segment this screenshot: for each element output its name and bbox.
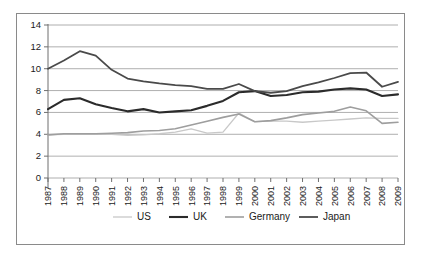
x-axis-tick-label: 1993	[139, 186, 149, 206]
chart-frame: 0246810121419871988198919901991199219931…	[16, 13, 405, 245]
x-axis-tick-label: 2005	[330, 186, 340, 206]
x-axis-tick-label: 1994	[155, 186, 165, 206]
x-axis-tick-label: 1999	[234, 186, 244, 206]
x-axis-tick-label: 2003	[298, 186, 308, 206]
y-axis-tick-label: 4	[36, 128, 41, 139]
x-axis-tick-label: 2008	[377, 186, 387, 206]
x-axis-tick-label: 1992	[123, 186, 133, 206]
x-axis-tick-label: 2000	[250, 186, 260, 206]
x-axis-tick-label: 2002	[282, 186, 292, 206]
y-axis-tick-label: 6	[36, 106, 41, 117]
x-axis-tick-label: 1996	[187, 186, 197, 206]
legend-label-germany: Germany	[249, 211, 290, 222]
x-axis-tick-label: 1990	[91, 186, 101, 206]
series-line-us	[48, 113, 398, 135]
x-axis-tick-label: 1991	[107, 186, 117, 206]
chart-plot-area: 0246810121419871988198919901991199219931…	[17, 14, 406, 246]
y-axis-tick-label: 14	[30, 19, 41, 30]
y-axis-tick-label: 0	[36, 172, 41, 183]
x-axis-tick-label: 2004	[314, 186, 324, 206]
series-line-germany	[48, 107, 398, 135]
y-axis-tick-label: 10	[30, 63, 41, 74]
x-axis-tick-label: 2007	[362, 186, 372, 206]
line-chart: 0246810121419871988198919901991199219931…	[17, 14, 406, 246]
x-axis-tick-label: 1988	[59, 186, 69, 206]
x-axis-tick-label: 1997	[202, 186, 212, 206]
legend-label-japan: Japan	[323, 211, 350, 222]
x-axis-tick-label: 2006	[346, 186, 356, 206]
x-axis-tick-label: 2009	[393, 186, 403, 206]
x-axis-tick-label: 1989	[75, 186, 85, 206]
x-axis-tick-label: 1995	[171, 186, 181, 206]
legend-label-uk: UK	[193, 211, 207, 222]
x-axis-tick-label: 2001	[266, 186, 276, 206]
y-axis-tick-label: 2	[36, 150, 41, 161]
series-line-japan	[48, 51, 398, 93]
y-axis-tick-label: 12	[30, 41, 41, 52]
legend-label-us: US	[137, 211, 151, 222]
x-axis-tick-label: 1987	[43, 186, 53, 206]
y-axis-tick-label: 8	[36, 85, 41, 96]
x-axis-tick-label: 1998	[218, 186, 228, 206]
